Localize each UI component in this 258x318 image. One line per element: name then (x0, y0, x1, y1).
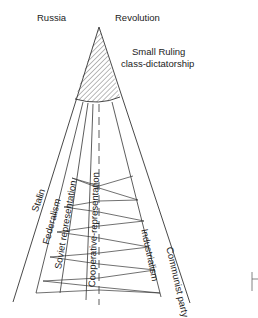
label-small-ruling: Small Ruling (132, 47, 185, 57)
label-class-dictatorship: class-dictatorship (121, 59, 194, 69)
label-revolution: Revolution (115, 13, 160, 23)
dictatorship-cap (75, 27, 120, 102)
label-russia: Russia (37, 13, 66, 23)
